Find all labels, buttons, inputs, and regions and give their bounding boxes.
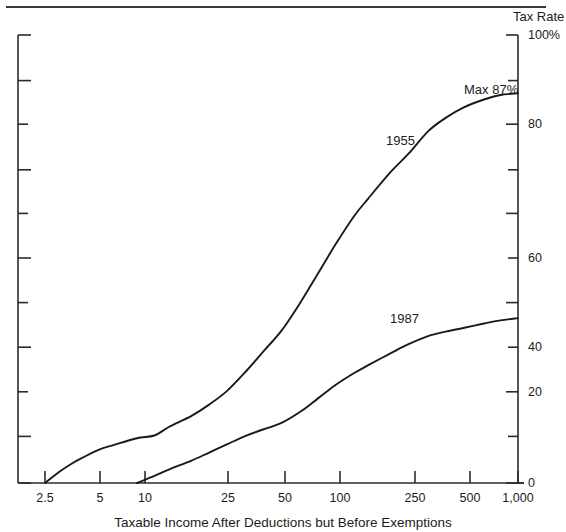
x-tick-label-1000: 1,000 [502, 492, 533, 505]
x-tick-label-100: 100 [330, 492, 351, 505]
right-axis-spine [506, 35, 524, 483]
x-tick-label-25: 25 [221, 492, 235, 505]
series-line-1987 [137, 318, 518, 483]
y-tick-label-60: 60 [528, 252, 542, 265]
x-tick-label-50: 50 [278, 492, 292, 505]
y-tick-label-0: 0 [528, 477, 535, 490]
series-line-1955 [45, 93, 518, 483]
annotation-max-rate: Max 87% [464, 83, 518, 96]
x-tick-label-500: 500 [460, 492, 481, 505]
x-tick-label-250: 250 [405, 492, 426, 505]
x-tick-label-5: 5 [97, 492, 104, 505]
x-tick-label-2.5: 2.5 [36, 492, 53, 505]
y-tick-label-20: 20 [528, 386, 542, 399]
bottom-axis-spine [18, 471, 524, 483]
left-axis-spine [18, 35, 31, 483]
y-tick-label-80: 80 [528, 118, 542, 131]
x-axis-title: Taxable Income After Deductions but Befo… [114, 516, 452, 530]
x-tick-label-10: 10 [138, 492, 152, 505]
series-label-1987: 1987 [390, 312, 419, 325]
chart-plot-area [0, 0, 566, 532]
y-axis-title: Tax Rate [513, 10, 564, 23]
chart-figure: 100% 80 60 40 20 0 Tax Rate 2.5 5 10 25 … [0, 0, 566, 532]
y-tick-label-100: 100% [528, 29, 560, 42]
series-label-1955: 1955 [386, 134, 415, 147]
y-tick-label-40: 40 [528, 341, 542, 354]
